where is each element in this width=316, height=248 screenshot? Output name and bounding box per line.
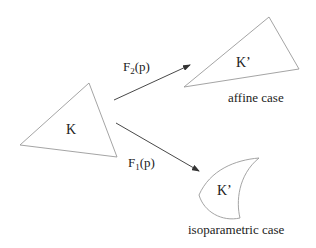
diagram-canvas (0, 0, 316, 248)
affine-caption: affine case (228, 91, 284, 104)
mapping-f1-label: F1(p) (128, 156, 155, 172)
mapping-f2-label: F2(p) (123, 60, 150, 76)
affine-triangle (184, 17, 299, 87)
isoparametric-target-label: K’ (217, 184, 232, 198)
reference-label: K (66, 123, 76, 137)
isoparametric-caption: isoparametric case (188, 223, 284, 236)
affine-target-label: K’ (236, 56, 251, 70)
mapping-f1-arg: (p) (140, 155, 155, 170)
reference-triangle (20, 83, 117, 157)
mapping-f2-arg: (p) (135, 59, 150, 74)
